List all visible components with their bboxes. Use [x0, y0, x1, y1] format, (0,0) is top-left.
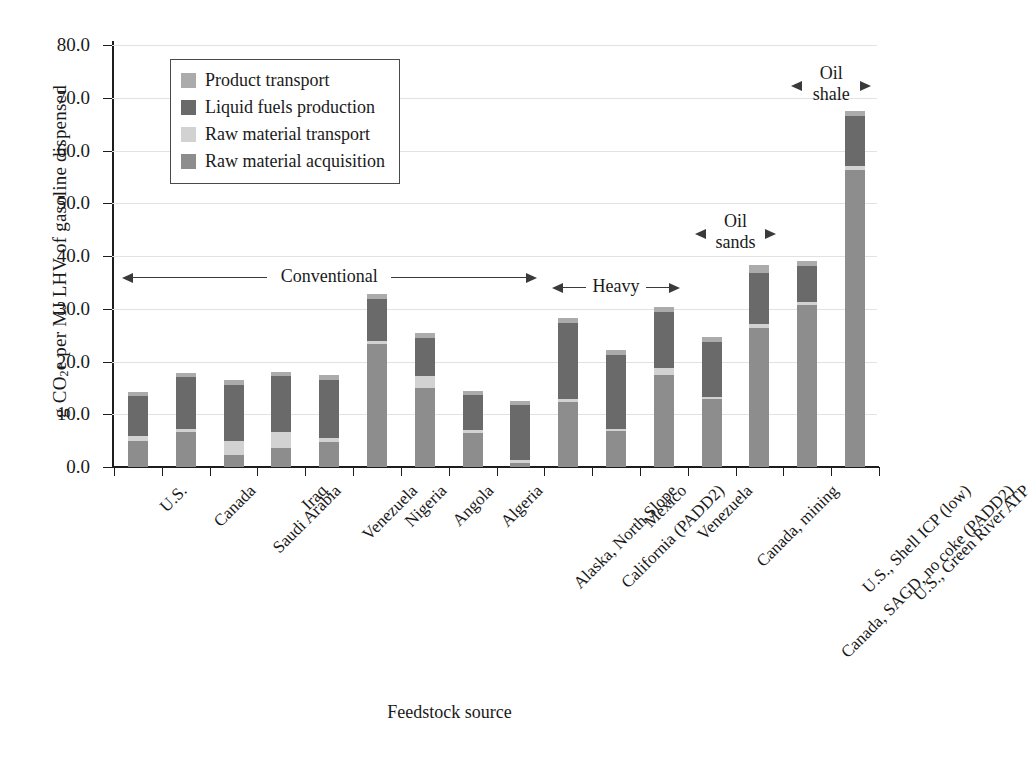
annotation-arrow-head-left-icon	[122, 273, 133, 283]
bar-segment-product-transport	[319, 375, 339, 380]
annotation-arrow-head-right-icon	[860, 81, 871, 91]
y-axis-tick-label: 20.0	[57, 350, 90, 372]
bar-segment-raw-material-acquisition	[176, 432, 196, 467]
legend-swatch-icon	[181, 73, 196, 88]
annotation-arrow-head-right-icon	[526, 273, 537, 283]
bar-segment-raw-material-transport	[749, 324, 769, 329]
bar-segment-raw-material-acquisition	[224, 455, 244, 467]
x-axis-tick	[544, 467, 545, 476]
bar-segment-raw-material-transport	[845, 166, 865, 169]
bar-segment-liquid-fuels-production	[606, 355, 626, 428]
y-axis-tick: 20.0	[103, 362, 112, 363]
bar-segment-product-transport	[654, 307, 674, 312]
bar-nigeria	[367, 294, 387, 467]
bar-u-s	[128, 392, 148, 467]
bar-segment-product-transport	[463, 391, 483, 396]
bar-segment-product-transport	[797, 261, 817, 266]
bar-canada-mining	[702, 337, 722, 467]
bar-segment-liquid-fuels-production	[319, 380, 339, 438]
x-axis-tick	[879, 467, 880, 476]
bar-segment-raw-material-transport	[367, 341, 387, 344]
x-axis-label: Angola	[448, 481, 498, 531]
bar-segment-product-transport	[128, 392, 148, 397]
bar-segment-liquid-fuels-production	[271, 376, 291, 432]
annotation-label: Oilsands	[705, 211, 767, 253]
bar-segment-product-transport	[176, 373, 196, 377]
annotation-arrow-head-right-icon	[669, 283, 680, 293]
bar-segment-liquid-fuels-production	[176, 377, 196, 429]
annotation-arrow-line	[562, 287, 586, 288]
bar-segment-liquid-fuels-production	[702, 342, 722, 397]
bar-mexico	[606, 350, 626, 467]
y-axis-tick-label: 70.0	[57, 86, 90, 108]
bar-segment-raw-material-transport	[176, 429, 196, 432]
x-axis-tick	[257, 467, 258, 476]
bar-segment-product-transport	[271, 372, 291, 377]
bar-saudi-arabia	[224, 380, 244, 467]
legend-swatch-icon	[181, 154, 196, 169]
bar-segment-raw-material-acquisition	[845, 170, 865, 468]
x-axis-tick	[688, 467, 689, 476]
y-axis-tick: 10.0	[103, 414, 112, 415]
x-axis-tick	[114, 467, 115, 476]
y-axis-line	[112, 41, 114, 467]
annotation-label-line: Conventional	[267, 266, 391, 287]
bar-segment-product-transport	[367, 294, 387, 299]
y-axis-tick: 50.0	[103, 203, 112, 204]
bar-segment-raw-material-transport	[510, 460, 530, 463]
legend-label: Raw material transport	[205, 124, 370, 145]
bar-segment-product-transport	[606, 350, 626, 355]
annotation-arrow-line	[646, 287, 670, 288]
annotation-label: Heavy	[586, 276, 646, 297]
bar-segment-raw-material-transport	[271, 432, 291, 448]
bar-segment-raw-material-acquisition	[367, 344, 387, 467]
x-axis-tick	[305, 467, 306, 476]
bar-segment-raw-material-acquisition	[558, 402, 578, 467]
x-axis-tick	[831, 467, 832, 476]
x-axis-tick	[210, 467, 211, 476]
legend-item: Liquid fuels production	[181, 94, 385, 121]
bar-segment-raw-material-acquisition	[271, 448, 291, 467]
x-axis-tick	[497, 467, 498, 476]
bar-segment-raw-material-transport	[128, 436, 148, 440]
bar-segment-raw-material-acquisition	[463, 433, 483, 467]
legend-item: Product transport	[181, 67, 385, 94]
bar-segment-raw-material-transport	[606, 429, 626, 432]
bar-segment-raw-material-transport	[224, 441, 244, 456]
y-axis-tick-label: 50.0	[57, 192, 90, 214]
bar-california-padd2	[558, 318, 578, 467]
x-axis-tick	[401, 467, 402, 476]
legend-label: Liquid fuels production	[205, 97, 375, 118]
y-axis-tick-label: 60.0	[57, 139, 90, 161]
bar-segment-liquid-fuels-production	[510, 405, 530, 460]
bar-venezuela	[319, 375, 339, 467]
bar-iraq	[271, 372, 291, 467]
x-axis-tick	[449, 467, 450, 476]
legend: Product transportLiquid fuels production…	[170, 59, 400, 184]
bar-segment-raw-material-acquisition	[749, 328, 769, 467]
bar-segment-raw-material-acquisition	[702, 399, 722, 467]
y-axis-tick: 0.0	[103, 467, 112, 468]
annotation-label-line: Oil	[800, 63, 862, 84]
y-axis-tick-label: 40.0	[57, 245, 90, 267]
bar-segment-raw-material-acquisition	[415, 388, 435, 467]
bar-segment-raw-material-acquisition	[797, 305, 817, 467]
bar-segment-raw-material-acquisition	[606, 431, 626, 467]
bar-u-s-green-river-atp	[845, 111, 865, 467]
legend-item: Raw material transport	[181, 121, 385, 148]
bar-segment-liquid-fuels-production	[749, 273, 769, 324]
bar-segment-liquid-fuels-production	[128, 396, 148, 436]
x-axis-label: U.S., Green River ATP	[910, 481, 1032, 605]
bar-angola	[415, 333, 435, 467]
annotation-arrow-head-left-icon	[791, 81, 802, 91]
annotation-label-line: Oil	[705, 211, 767, 232]
bar-segment-raw-material-acquisition	[319, 442, 339, 467]
annotation-label: Conventional	[267, 266, 391, 287]
bar-segment-liquid-fuels-production	[415, 338, 435, 377]
bar-segment-raw-material-acquisition	[510, 463, 530, 467]
x-axis-label: Algeria	[497, 481, 547, 531]
y-axis-tick-label: 0.0	[66, 456, 90, 478]
y-axis-tick-label: 10.0	[57, 403, 90, 425]
bar-segment-product-transport	[749, 265, 769, 273]
